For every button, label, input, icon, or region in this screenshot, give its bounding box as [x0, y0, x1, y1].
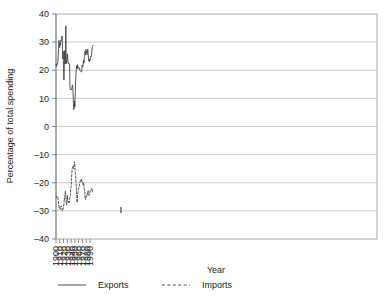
y-tick-label: –20 [34, 178, 49, 188]
y-tick-label: 20 [39, 65, 49, 75]
y-axis-ticks-group: 403020100–10–20–30–40 [34, 9, 56, 244]
y-tick-label: –10 [34, 150, 49, 160]
x-axis-ticks-group: 1900191019201930194019501960197019801990 [51, 239, 95, 266]
legend-label-exports: Exports [98, 280, 129, 290]
y-axis-title: Percentage of total spending [5, 69, 15, 184]
legend-label-imports: Imports [202, 280, 233, 290]
y-tick-label: 10 [39, 94, 49, 104]
x-axis-title: Year [207, 265, 225, 275]
x-tick-label: 1990 [85, 246, 95, 266]
y-tick-label: 30 [39, 37, 49, 47]
y-tick-label: 40 [39, 9, 49, 19]
y-tick-label: –30 [34, 206, 49, 216]
y-tick-label: 0 [44, 122, 49, 132]
line-chart-svg: 403020100–10–20–30–40 190019101920193019… [0, 0, 384, 296]
y-tick-label: –40 [34, 234, 49, 244]
legend-group: Exports Imports [58, 280, 233, 290]
chart-figure: 403020100–10–20–30–40 190019101920193019… [0, 0, 384, 296]
